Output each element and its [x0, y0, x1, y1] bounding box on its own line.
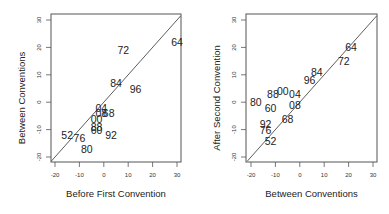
x-tick-label: -10 [75, 172, 84, 178]
point-label-64: 64 [171, 36, 183, 48]
point-label-80: 80 [81, 143, 93, 155]
x-tick-label: 20 [345, 172, 352, 178]
x-tick-label: 30 [370, 172, 377, 178]
scatter-plots: -20-100102030-20-100102030Before First C… [0, 0, 389, 214]
x-tick-label: 0 [102, 172, 106, 178]
point-label-72: 72 [117, 44, 129, 56]
point-label-72: 72 [338, 55, 350, 67]
point-label-52: 52 [61, 129, 73, 141]
point-label-80: 80 [250, 96, 262, 108]
point-label-64: 64 [345, 41, 357, 53]
scatter-panel-1: -20-100102030-20-100102030Before First C… [16, 14, 183, 199]
point-label-68: 68 [103, 107, 115, 119]
x-axis-label: Before First Convention [66, 188, 166, 199]
scatter-panel-2: -20-100102030-20-100102030Between Conven… [211, 14, 377, 199]
point-label-96: 96 [130, 83, 142, 95]
x-tick-label: 30 [174, 172, 181, 178]
point-label-60: 60 [265, 102, 277, 114]
point-label-52: 52 [265, 135, 277, 147]
x-tick-label: -10 [271, 172, 280, 178]
point-label-92: 92 [105, 129, 117, 141]
point-label-08: 08 [289, 99, 301, 111]
y-tick-label: -20 [36, 152, 42, 161]
y-tick-label: 10 [36, 71, 42, 78]
point-label-96: 96 [304, 74, 316, 86]
point-label-60: 60 [91, 124, 103, 136]
y-tick-label: 30 [36, 16, 42, 23]
x-tick-label: -20 [247, 172, 256, 178]
point-label-84: 84 [110, 77, 122, 89]
y-tick-label: 0 [231, 100, 237, 104]
point-label-68: 68 [282, 113, 294, 125]
y-tick-label: -20 [231, 152, 237, 161]
x-tick-label: 0 [298, 172, 302, 178]
y-axis-label: Between Conventions [16, 52, 27, 145]
x-tick-label: 20 [149, 172, 156, 178]
y-tick-label: 10 [231, 71, 237, 78]
x-tick-label: -20 [51, 172, 60, 178]
x-tick-label: 10 [321, 172, 328, 178]
x-axis-label: Between Conventions [265, 188, 358, 199]
x-tick-label: 10 [125, 172, 132, 178]
y-tick-label: 30 [231, 16, 237, 23]
y-tick-label: 20 [36, 43, 42, 50]
y-tick-label: -10 [36, 125, 42, 134]
y-axis-label: After Second Convention [211, 45, 222, 151]
y-tick-label: -10 [231, 125, 237, 134]
y-tick-label: 20 [231, 43, 237, 50]
y-tick-label: 0 [36, 100, 42, 104]
point-label-88: 88 [267, 88, 279, 100]
